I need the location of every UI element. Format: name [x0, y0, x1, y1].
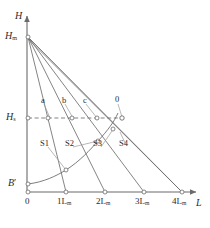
chart-canvas — [0, 0, 210, 228]
xtick-2-value: 2L — [96, 196, 106, 206]
bprime-label: B′ — [8, 178, 16, 188]
marker-bprime — [26, 182, 30, 186]
chart-figure: H L Hm Hs B′ 0 1Lm 2Lm 3Lm 4Lm a b c 0 S… — [0, 0, 210, 228]
marker-hs-axis — [26, 116, 30, 120]
marker-tick-4 — [180, 190, 184, 194]
xtick-3-sub: m — [145, 200, 149, 206]
hm-subscript: m — [12, 34, 17, 41]
bprime-curve — [28, 113, 118, 184]
xtick-2: 2Lm — [96, 197, 110, 207]
bprime-prime: ′ — [14, 177, 16, 188]
marker-s3-point — [111, 127, 115, 131]
xtick-2-sub: m — [106, 200, 110, 206]
leader-o — [118, 104, 122, 117]
marker-hm-apex — [26, 35, 30, 39]
xtick-4-sub: m — [182, 200, 186, 206]
hs-subscript: s — [13, 115, 15, 122]
x-axis-label: L — [196, 198, 202, 208]
marker-hs-b — [70, 116, 74, 120]
line-o — [28, 39, 182, 192]
xtick-0: 0 — [25, 197, 30, 206]
xtick-1-value: 1L — [57, 196, 67, 206]
xtick-4-value: 4L — [172, 196, 182, 206]
xtick-1: 1Lm — [57, 197, 71, 207]
xtick-3: 3Lm — [135, 197, 149, 207]
annotation-s4: S4 — [119, 139, 128, 148]
annotation-a: a — [41, 96, 45, 105]
hm-label: Hm — [5, 31, 17, 41]
marker-hs-o — [120, 116, 124, 120]
xtick-4: 4Lm — [172, 197, 186, 207]
annotation-s2: S2 — [65, 139, 74, 148]
line-c — [28, 37, 144, 192]
marker-s1-point — [64, 168, 68, 172]
annotation-b: b — [62, 96, 66, 105]
xtick-1-sub: m — [67, 200, 71, 206]
xtick-3-value: 3L — [135, 196, 145, 206]
marker-tick-0 — [26, 190, 30, 194]
marker-tick-2 — [103, 190, 107, 194]
leader-s1 — [48, 147, 66, 170]
marker-hs-c — [95, 116, 99, 120]
marker-hs-a — [46, 116, 50, 120]
hs-label: Hs — [6, 112, 16, 122]
annotation-s3: S3 — [93, 139, 102, 148]
leader-s3 — [101, 131, 112, 147]
line-a — [28, 37, 66, 192]
y-axis-label: H — [15, 11, 22, 21]
annotation-c: c — [83, 96, 87, 105]
marker-tick-3 — [142, 190, 146, 194]
annotation-s1: S1 — [40, 139, 49, 148]
marker-tick-1 — [64, 190, 68, 194]
annotation-o: 0 — [115, 95, 119, 104]
